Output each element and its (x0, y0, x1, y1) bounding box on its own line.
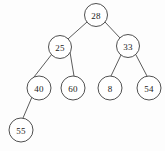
node-label: 55 (16, 126, 26, 136)
tree-edge (105, 22, 120, 38)
node-label: 25 (55, 43, 65, 53)
node-label: 8 (108, 84, 113, 94)
binary-tree-figure: 282533406085455 (0, 0, 165, 151)
tree-node: 54 (137, 76, 161, 100)
node-label: 40 (34, 84, 44, 94)
node-label: 60 (68, 84, 78, 94)
tree-edge (23, 97, 32, 118)
tree-edge (34, 54, 52, 77)
tree-edge (70, 52, 74, 76)
tree-node: 60 (61, 76, 85, 100)
tree-edge (136, 55, 147, 76)
tree-node: 8 (98, 76, 122, 100)
tree-edge (111, 55, 121, 76)
node-label: 33 (123, 42, 133, 52)
node-label: 28 (91, 11, 101, 21)
tree-node: 40 (27, 76, 51, 100)
tree-edge (68, 22, 87, 39)
tree-node: 55 (9, 118, 33, 142)
tree-canvas: 282533406085455 (0, 0, 165, 151)
tree-node: 28 (85, 4, 108, 27)
tree-node: 33 (117, 35, 140, 58)
tree-node: 25 (49, 36, 72, 59)
node-label: 54 (144, 84, 154, 94)
